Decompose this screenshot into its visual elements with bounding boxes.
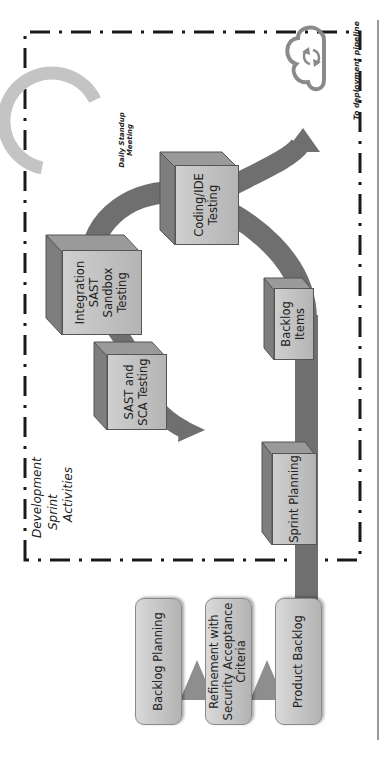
product-backlog-box: Product Backlog bbox=[275, 598, 322, 725]
standup-line-1: Daily Standup bbox=[118, 105, 126, 175]
backlog-planning-label: Backlog Planning bbox=[152, 612, 166, 711]
refinement-box: Refinement with Security Acceptance Crit… bbox=[205, 598, 252, 725]
product-backlog-label: Product Backlog bbox=[292, 615, 306, 708]
coding-ide-cube: Coding/IDE Testing bbox=[175, 165, 239, 245]
title-line-1: Development bbox=[30, 457, 46, 538]
backlog-items-label: Backlog Items bbox=[280, 289, 308, 359]
integration-cube: Integration SAST Sandbox Testing bbox=[62, 250, 142, 335]
diagram-graphics bbox=[0, 0, 386, 760]
sast-arrowhead bbox=[178, 418, 205, 442]
refinement-label: Refinement with Security Acceptance Crit… bbox=[208, 599, 249, 724]
sast-sca-cube: SAST and SCA Testing bbox=[107, 354, 167, 430]
cloud-sync-icon bbox=[287, 28, 324, 90]
daily-standup-label: Daily Standup Meeting bbox=[118, 105, 135, 175]
standup-line-2: Meeting bbox=[126, 105, 134, 175]
title-line-2: Sprint bbox=[46, 457, 62, 538]
integration-label: Integration SAST Sandbox Testing bbox=[74, 251, 129, 334]
sprint-planning-label: Sprint Planning bbox=[288, 455, 302, 543]
sprint-diagram: Backlog Planning Refinement with Securit… bbox=[0, 0, 386, 760]
backlog-items-cube: Backlog Items bbox=[274, 288, 314, 360]
sast-sca-label: SAST and SCA Testing bbox=[123, 355, 151, 429]
coding-ide-label: Coding/IDE Testing bbox=[193, 166, 221, 244]
deploy-arrowhead bbox=[285, 128, 320, 152]
sprint-area-title: Development Sprint Activities bbox=[30, 457, 77, 538]
title-line-3: Activities bbox=[61, 457, 77, 538]
backlog-planning-box: Backlog Planning bbox=[135, 598, 182, 725]
daily-standup-arc bbox=[4, 73, 95, 168]
sprint-planning-cube: Sprint Planning bbox=[272, 453, 317, 545]
deployment-label: To deployment pipeline bbox=[352, 21, 361, 120]
